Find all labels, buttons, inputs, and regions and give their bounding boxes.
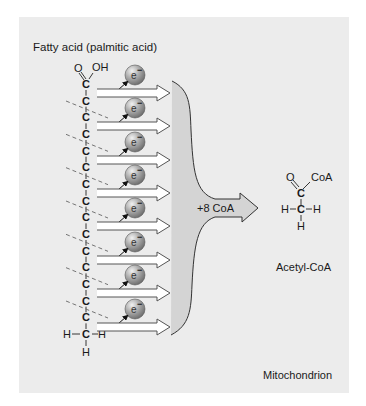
electron-charge: − xyxy=(137,65,142,75)
electron-charge: − xyxy=(137,198,142,208)
carbon-atom: C xyxy=(82,261,90,273)
product-label: Acetyl-CoA xyxy=(276,262,331,273)
acetyl-release-arrow xyxy=(97,319,170,335)
acetyl-coa-structure: O CoA C C H H H xyxy=(281,171,333,232)
electron: e− xyxy=(118,165,145,190)
carbon-atom: C xyxy=(82,145,90,157)
electron: e− xyxy=(118,299,145,324)
carbon-atom: C xyxy=(82,195,90,207)
electron: e− xyxy=(118,198,145,223)
carbon-atom: C xyxy=(82,245,90,257)
electron-charge: − xyxy=(137,299,142,309)
terminal-H-bottom: H xyxy=(82,346,90,358)
acetyl-C-methyl: C xyxy=(297,203,305,215)
compartment-label: Mitochondrion xyxy=(263,370,332,381)
electron-charge: − xyxy=(137,98,142,108)
carbon-atom: C xyxy=(82,311,90,323)
acetyl-H-right: H xyxy=(313,203,321,215)
electron: e− xyxy=(118,232,145,257)
fatty-acid-chain: OOHCCCCCCCCCCCCCCCCHHH xyxy=(63,61,109,358)
diagram-title: Fatty acid (palmitic acid) xyxy=(33,42,157,54)
acetyl-H-left: H xyxy=(281,203,289,215)
electron: e− xyxy=(118,65,145,90)
carbon-atom: C xyxy=(82,211,90,223)
carbon-atom: C xyxy=(82,161,90,173)
electron: e− xyxy=(118,132,145,157)
acetyl-C-carbonyl: C xyxy=(297,187,305,199)
beta-oxidation-diagram: OOHCCCCCCCCCCCCCCCCHHH e−e−e−e−e−e−e−e− … xyxy=(0,0,366,406)
coa-reagent-label: +8 CoA xyxy=(197,203,234,214)
electron: e− xyxy=(118,98,145,123)
electron-charge: − xyxy=(137,165,142,175)
acetyl-CoA-group: CoA xyxy=(311,171,333,183)
carbon-atom: C xyxy=(82,328,90,340)
acetyl-release-arrow xyxy=(97,218,170,234)
acetyl-H-bottom: H xyxy=(297,220,305,232)
electron-charge: − xyxy=(137,132,142,142)
carbon-atom: C xyxy=(82,78,90,90)
electron-charge: − xyxy=(137,232,142,242)
terminal-H-left: H xyxy=(63,328,71,340)
carbon-atom: C xyxy=(82,178,90,190)
acetyl-release-arrow xyxy=(97,118,170,134)
carboxyl-OH: OH xyxy=(92,61,109,73)
carbon-atom: C xyxy=(82,111,90,123)
acetyl-release-arrow xyxy=(97,285,170,301)
carbon-atom: C xyxy=(82,228,90,240)
carbon-atom: C xyxy=(82,278,90,290)
electron-charge: − xyxy=(137,265,142,275)
carbon-atom: C xyxy=(82,295,90,307)
electron: e− xyxy=(118,265,145,290)
carbon-atom: C xyxy=(82,128,90,140)
carbon-atom: C xyxy=(82,95,90,107)
